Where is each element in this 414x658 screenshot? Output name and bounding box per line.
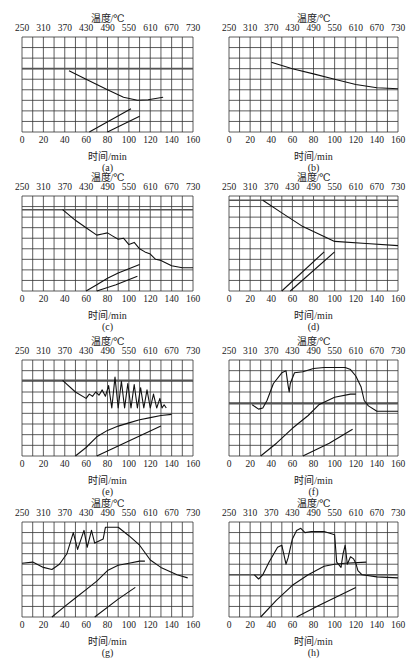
time-tick: 100 [122, 620, 136, 630]
time-tick: 20 [39, 135, 49, 145]
temperature-tick: 370 [58, 182, 72, 192]
temperature-tick: 670 [165, 508, 179, 518]
time-tick: 20 [245, 620, 255, 630]
plot-area [229, 37, 398, 132]
time-tick: 120 [349, 620, 363, 630]
time-tick: 160 [186, 459, 200, 469]
temperature-tick: 490 [306, 182, 320, 192]
time-tick: 0 [20, 135, 25, 145]
temperature-tick: 250 [222, 182, 236, 192]
time-axis-title: 时间/min [294, 633, 332, 648]
plot-area [22, 37, 193, 132]
time-tick: 100 [122, 135, 136, 145]
time-tick: 140 [165, 135, 179, 145]
time-tick: 60 [81, 459, 91, 469]
time-tick: 40 [267, 620, 277, 630]
panel-caption: (d) [308, 321, 320, 332]
time-tick: 20 [245, 135, 255, 145]
time-tick: 140 [370, 459, 384, 469]
curve-lower-a [75, 414, 171, 456]
time-tick: 80 [103, 459, 113, 469]
time-tick: 40 [267, 135, 277, 145]
time-tick: 40 [267, 294, 277, 304]
time-tick: 20 [39, 294, 49, 304]
panel-caption: (c) [102, 321, 113, 332]
temperature-tick: 370 [58, 23, 72, 33]
curve-upper [252, 368, 398, 412]
curve-lower-a [86, 265, 140, 291]
curve-lower-b [97, 276, 138, 291]
temperature-tick: 670 [370, 346, 384, 356]
time-tick: 0 [227, 135, 232, 145]
temperature-tick: 550 [328, 182, 342, 192]
temperature-tick: 730 [391, 508, 405, 518]
temperature-tick: 610 [143, 23, 157, 33]
time-tick: 140 [165, 459, 179, 469]
curve-upper [69, 71, 163, 101]
time-axis-title: 时间/min [88, 148, 126, 163]
plot-area [22, 522, 193, 617]
time-tick: 100 [328, 294, 342, 304]
plot-area [22, 360, 193, 456]
temperature-tick: 310 [243, 182, 257, 192]
time-tick: 140 [370, 620, 384, 630]
temperature-tick: 250 [222, 346, 236, 356]
temperature-tick: 730 [391, 182, 405, 192]
temperature-tick: 310 [36, 508, 50, 518]
temperature-tick: 550 [122, 23, 136, 33]
plot-area [229, 196, 398, 291]
temperature-tick: 370 [264, 346, 278, 356]
time-tick: 140 [370, 294, 384, 304]
time-tick: 60 [81, 135, 91, 145]
temperature-tick: 610 [143, 346, 157, 356]
time-tick: 20 [245, 459, 255, 469]
temperature-tick: 310 [36, 23, 50, 33]
time-tick: 160 [186, 135, 200, 145]
temperature-tick: 730 [186, 23, 200, 33]
time-tick: 120 [143, 459, 157, 469]
temperature-tick: 670 [370, 182, 384, 192]
time-tick: 60 [288, 620, 298, 630]
temperature-tick: 550 [122, 346, 136, 356]
time-tick: 80 [309, 620, 319, 630]
temperature-tick: 430 [285, 346, 299, 356]
temperature-tick: 370 [58, 508, 72, 518]
time-axis-title: 时间/min [88, 307, 126, 322]
panel-caption: (g) [102, 647, 114, 658]
time-tick: 160 [186, 294, 200, 304]
temperature-tick: 490 [306, 346, 320, 356]
time-tick: 80 [103, 620, 113, 630]
temperature-tick: 490 [100, 346, 114, 356]
time-tick: 120 [349, 459, 363, 469]
temperature-tick: 670 [165, 23, 179, 33]
curve-upper [263, 200, 398, 245]
time-tick: 160 [391, 135, 405, 145]
time-tick: 0 [20, 620, 25, 630]
time-tick: 60 [288, 135, 298, 145]
temperature-tick: 250 [15, 508, 29, 518]
temperature-tick: 550 [122, 182, 136, 192]
time-axis-title: 时间/min [88, 633, 126, 648]
temperature-tick: 610 [143, 508, 157, 518]
temperature-tick: 310 [243, 508, 257, 518]
temperature-tick: 670 [370, 508, 384, 518]
time-tick: 80 [309, 135, 319, 145]
time-tick: 100 [122, 294, 136, 304]
temperature-tick: 550 [328, 508, 342, 518]
temperature-tick: 610 [349, 346, 363, 356]
temperature-tick: 550 [122, 508, 136, 518]
temperature-tick: 250 [222, 508, 236, 518]
time-tick: 0 [227, 620, 232, 630]
temperature-tick: 730 [186, 346, 200, 356]
time-tick: 100 [122, 459, 136, 469]
time-axis-title: 时间/min [294, 307, 332, 322]
curve-upper [22, 527, 188, 578]
temperature-tick: 310 [243, 346, 257, 356]
temperature-tick: 490 [100, 23, 114, 33]
temperature-tick: 250 [15, 182, 29, 192]
temperature-tick: 490 [100, 182, 114, 192]
temperature-tick: 370 [264, 182, 278, 192]
time-tick: 40 [60, 459, 70, 469]
time-tick: 80 [309, 459, 319, 469]
temperature-tick: 730 [391, 346, 405, 356]
